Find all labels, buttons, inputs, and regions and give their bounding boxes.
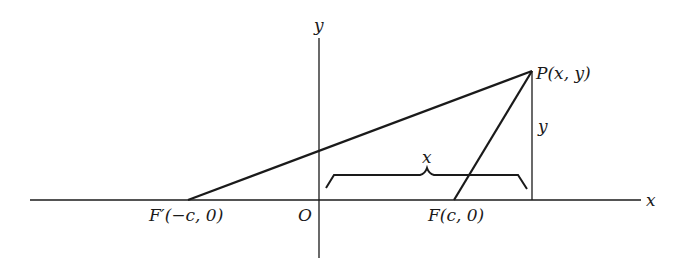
point-f-prime-label: F′(−c, 0) bbox=[148, 205, 223, 225]
vertical-segment-label: y bbox=[537, 116, 548, 136]
y-axis-label: y bbox=[313, 15, 324, 35]
x-axis-label: x bbox=[646, 190, 656, 210]
horizontal-brace-label: x bbox=[422, 147, 432, 167]
point-f-label: F(c, 0) bbox=[427, 205, 484, 225]
diagram-canvas: x y O x y P(x, y) F′(−c, 0) F(c, 0) bbox=[0, 0, 673, 277]
segment-f-prime-to-p bbox=[188, 71, 532, 200]
segment-f-to-p bbox=[454, 71, 532, 200]
point-p-label: P(x, y) bbox=[535, 63, 591, 83]
origin-label: O bbox=[298, 205, 312, 225]
horizontal-brace bbox=[326, 168, 527, 189]
